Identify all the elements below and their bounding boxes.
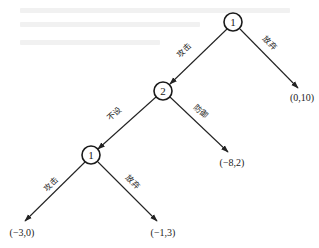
player-label: 1 [88,149,94,161]
edge-label: 防御 [192,102,211,120]
edges-group: 攻击放弃不设防御攻击放弃 [25,29,298,221]
edge-arrow [98,162,157,221]
edge-label: 攻击 [175,41,193,59]
edge-label: 放弃 [124,173,142,191]
payoff-label: (−3,0) [10,227,35,239]
edge-label: 放弃 [261,34,279,52]
edge-arrow [25,162,85,221]
edge-arrow [98,97,156,149]
payoff-label: (−8,2) [220,157,245,169]
terminals-group: (0,10)(−8,2)(−3,0)(−1,3) [10,92,314,239]
player-label: 1 [230,16,236,28]
payoff-label: (0,10) [290,92,314,104]
game-tree-diagram: 攻击放弃不设防御攻击放弃 121 (0,10)(−8,2)(−3,0)(−1,3… [0,0,319,248]
player-label: 2 [160,85,166,97]
tree-canvas: 攻击放弃不设防御攻击放弃 121 (0,10)(−8,2)(−3,0)(−1,3… [0,0,319,248]
payoff-label: (−1,3) [151,227,176,239]
edge-label: 攻击 [42,175,60,193]
edge-label: 不设 [105,105,124,123]
